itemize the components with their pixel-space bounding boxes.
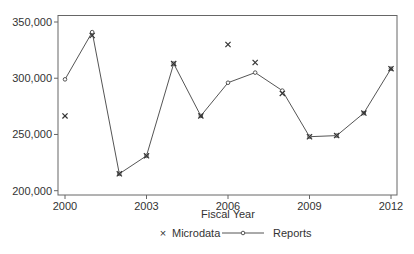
- x-tick-label: 2012: [379, 200, 403, 212]
- x-tick-label: 2000: [53, 200, 77, 212]
- x-tick-label: 2003: [134, 200, 158, 212]
- legend-reports-dot-icon: [241, 231, 245, 235]
- y-tick-label: 250,000: [12, 128, 52, 140]
- y-tick-label: 300,000: [12, 72, 52, 84]
- legend-item-microdata: × Microdata: [160, 227, 221, 239]
- reports-point: [253, 71, 257, 75]
- x-tick-label: 2009: [297, 200, 321, 212]
- legend: × Microdata Reports: [160, 227, 312, 239]
- plot-area: [58, 16, 397, 196]
- y-tick-label: 350,000: [12, 16, 52, 28]
- x-axis-title: Fiscal Year: [201, 208, 255, 220]
- legend-item-reports: Reports: [222, 227, 312, 239]
- reports-point: [90, 30, 94, 34]
- legend-microdata-symbol: ×: [160, 227, 166, 239]
- legend-reports-label: Reports: [273, 227, 312, 239]
- legend-microdata-label: Microdata: [172, 227, 221, 239]
- line-chart: 200,000250,000300,000350,000 20002003200…: [0, 0, 414, 254]
- y-tick-label: 200,000: [12, 185, 52, 197]
- y-axis: 200,000250,000300,000350,000: [12, 16, 58, 197]
- reports-point: [226, 81, 230, 85]
- reports-point: [63, 78, 67, 82]
